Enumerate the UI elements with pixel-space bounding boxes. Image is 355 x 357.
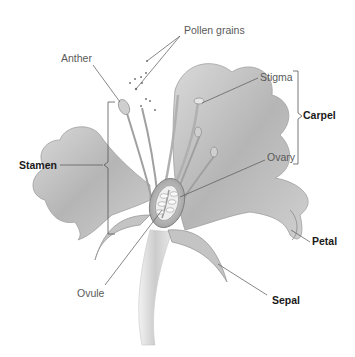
label-pollen-grains: Pollen grains xyxy=(184,25,245,36)
sepal-right xyxy=(168,230,227,282)
label-ovule: Ovule xyxy=(77,288,104,299)
label-petal: Petal xyxy=(312,236,337,247)
label-anther: Anther xyxy=(61,53,92,64)
label-stigma: Stigma xyxy=(260,72,293,83)
label-carpel: Carpel xyxy=(303,110,336,121)
flower-illustration xyxy=(0,0,355,357)
stem xyxy=(139,230,172,345)
pollen-dots xyxy=(129,60,156,111)
flower-diagram: Pollen grains Anther Stigma Carpel Stame… xyxy=(0,0,355,357)
label-stamen: Stamen xyxy=(19,160,57,171)
label-ovary: Ovary xyxy=(267,152,295,163)
label-sepal: Sepal xyxy=(272,295,300,306)
